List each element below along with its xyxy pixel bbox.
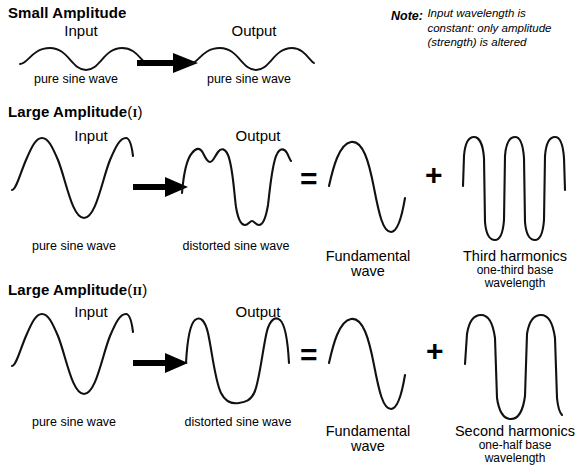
s3-harm-line-1: Second harmonics (455, 423, 575, 439)
s2-input-wave (10, 134, 135, 239)
s3-plus-text: + (426, 334, 444, 367)
s3-input-caption-text: pure sine wave (32, 415, 116, 429)
s3-harm-line-3: wavelength (485, 451, 546, 465)
s3-input-wave (10, 310, 135, 415)
note-line-3: (strength) is altered (427, 36, 526, 48)
s3-fund-line-2: wave (351, 438, 385, 454)
s1-input-caption-text: pure sine wave (34, 72, 118, 86)
s2-harm-line-2: one-third base (477, 263, 554, 277)
s2-harm-line-3: wavelength (485, 276, 546, 290)
s3-harm-line-2: one-half base (479, 438, 552, 452)
s3-harmonics-subcaption: one-half base wavelength (452, 439, 578, 465)
s2-input-caption-text: pure sine wave (32, 239, 116, 253)
s2-harm-line-1: Third harmonics (463, 248, 567, 264)
section-heading-text: Large Amplitude (8, 281, 127, 298)
note-keyword: Note: (391, 9, 423, 23)
s3-fund-line-1: Fundamental (326, 423, 411, 439)
s2-plus-operator: + (425, 160, 443, 190)
s2-output-label: Output (218, 127, 298, 144)
s3-output-caption: distorted sine wave (172, 416, 304, 429)
s3-output-caption-text: distorted sine wave (184, 415, 291, 429)
s1-output-caption-text: pure sine wave (207, 72, 291, 86)
s2-fund-line-2: wave (351, 263, 385, 279)
s3-fundamental-wave (327, 313, 407, 421)
note-line-2: constant: only amplitude (427, 22, 551, 34)
s1-output-label-text: Output (231, 22, 276, 39)
section-heading-large-amplitude-1: Large Amplitude(I) (8, 103, 142, 121)
s1-input-label-text: Input (64, 22, 97, 39)
section-heading-text: Large Amplitude (8, 103, 127, 120)
s1-output-wave (188, 44, 316, 74)
section-heading-large-amplitude-2: Large Amplitude(II) (8, 281, 147, 299)
s3-equals-text: = (300, 338, 318, 371)
s1-output-caption: pure sine wave (186, 73, 312, 86)
s2-third-harmonics-wave (460, 134, 572, 246)
s2-fundamental-caption: Fundamental wave (318, 249, 418, 279)
s2-output-wave (180, 143, 292, 238)
paren-close: ) (137, 103, 142, 120)
s3-arrow-right-icon (133, 353, 189, 373)
s3-equals-operator: = (300, 340, 318, 370)
s2-output-caption-text: distorted sine wave (182, 239, 289, 253)
note-line-1: Input wavelength is (427, 7, 525, 19)
s2-equals-text: = (300, 162, 318, 195)
section-heading-text: Small Amplitude (8, 4, 126, 21)
s2-harmonics-subcaption: one-third base wavelength (455, 264, 575, 290)
s3-fundamental-caption: Fundamental wave (318, 424, 418, 454)
s3-output-wave (183, 315, 295, 415)
s2-output-label-text: Output (235, 127, 280, 144)
s2-harmonics-caption: Third harmonics (455, 249, 575, 264)
s2-fundamental-wave (327, 136, 407, 244)
section-heading-small-amplitude: Small Amplitude (8, 4, 126, 21)
s2-input-caption: pure sine wave (14, 240, 134, 253)
s2-plus-text: + (425, 158, 443, 191)
s2-fund-line-1: Fundamental (326, 248, 411, 264)
s3-plus-operator: + (426, 336, 444, 366)
diagram-canvas: Small Amplitude Note: Input wavelength i… (0, 0, 578, 474)
s3-input-caption: pure sine wave (14, 416, 134, 429)
s1-output-label: Output (214, 22, 294, 39)
s2-output-caption: distorted sine wave (170, 240, 302, 253)
s1-input-caption: pure sine wave (16, 73, 136, 86)
note-block: Note: Input wavelength is constant: only… (391, 6, 551, 50)
s3-harmonics-caption: Second harmonics (452, 424, 578, 439)
section-roman-numeral: II (132, 284, 142, 298)
s3-second-harmonics-wave (462, 312, 570, 424)
s1-input-wave (18, 44, 148, 74)
note-body: Input wavelength is constant: only ampli… (427, 6, 551, 50)
s2-equals-operator: = (300, 164, 318, 194)
paren-close: ) (142, 281, 147, 298)
s1-input-label: Input (46, 22, 116, 39)
